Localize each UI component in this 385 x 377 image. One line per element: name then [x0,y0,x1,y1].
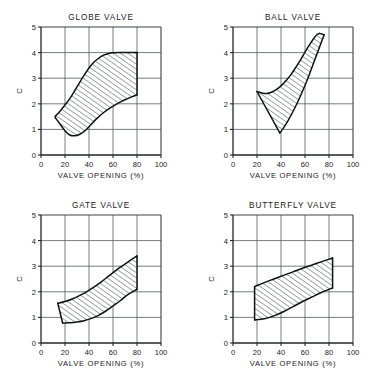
x-tick-label: 100 [347,348,360,357]
x-tick-label: 0 [39,160,43,169]
y-tick-label: 1 [224,313,228,322]
y-tick-label: 4 [32,49,36,58]
band-fill [257,33,324,133]
chart-panel-globe-valve: GLOBE VALVE020406080100012345VALVE OPENI… [0,0,192,188]
y-tick-label: 0 [224,151,228,160]
x-tick-label: 60 [301,348,309,357]
y-tick-label: 0 [32,151,36,160]
y-tick-label: 5 [224,211,228,220]
y-tick-label: 4 [224,237,228,246]
y-tick-label: 0 [224,339,228,348]
y-tick-label: 1 [32,313,36,322]
y-tick-label: 2 [224,100,228,109]
x-tick-label: 60 [109,348,117,357]
chart-panel-butterfly-valve: BUTTERFLY VALVE020406080100012345VALVE O… [192,188,385,377]
chart-title: GATE VALVE [72,201,130,210]
chart-title: GLOBE VALVE [68,13,134,22]
plot-frame [41,215,161,343]
x-tick-label: 80 [325,348,333,357]
y-tick-label: 3 [224,74,228,83]
chart-title: BALL VALVE [265,13,321,22]
y-tick-label: 3 [224,262,228,271]
x-axis-ticks: 020406080100 [39,155,167,169]
x-tick-label: 0 [231,160,235,169]
y-tick-label: 4 [32,237,36,246]
x-tick-label: 40 [277,160,285,169]
y-tick-label: 5 [224,23,228,32]
x-tick-label: 40 [85,348,93,357]
y-axis-label: C [207,88,216,94]
x-tick-label: 100 [347,160,360,169]
x-tick-label: 80 [325,160,333,169]
y-tick-label: 1 [32,125,36,134]
x-tick-label: 20 [61,160,69,169]
x-axis-label: VALVE OPENING (%) [58,171,144,180]
x-tick-label: 60 [301,160,309,169]
y-tick-label: 0 [32,339,36,348]
x-tick-label: 40 [85,160,93,169]
x-tick-label: 20 [253,348,261,357]
x-axis-label: VALVE OPENING (%) [250,171,336,180]
y-tick-label: 3 [32,262,36,271]
valve-charts-figure: GLOBE VALVE020406080100012345VALVE OPENI… [0,0,385,377]
x-tick-label: 40 [277,348,285,357]
y-tick-label: 5 [32,211,36,220]
x-tick-label: 0 [231,348,235,357]
x-tick-label: 80 [133,160,141,169]
y-axis-label: C [15,88,24,94]
grid [41,215,161,343]
y-axis-label: C [15,276,24,282]
chart-panel-ball-valve: BALL VALVE020406080100012345VALVE OPENIN… [192,0,385,188]
x-tick-label: 100 [155,160,168,169]
y-tick-label: 2 [32,100,36,109]
y-tick-label: 2 [32,288,36,297]
x-axis-label: VALVE OPENING (%) [58,359,144,368]
x-axis-ticks: 020406080100 [231,155,359,169]
band-fill [255,258,333,320]
x-tick-label: 60 [109,160,117,169]
y-axis-ticks: 012345 [224,211,233,348]
y-axis-ticks: 012345 [224,23,233,160]
y-tick-label: 5 [32,23,36,32]
x-axis-ticks: 020406080100 [231,343,359,357]
axes [41,215,161,343]
y-tick-label: 4 [224,49,228,58]
y-tick-label: 1 [224,125,228,134]
x-tick-label: 100 [155,348,168,357]
y-axis-ticks: 012345 [32,23,41,160]
band-fill [55,53,137,136]
x-tick-label: 20 [253,160,261,169]
x-tick-label: 80 [133,348,141,357]
y-tick-label: 3 [32,74,36,83]
y-axis-ticks: 012345 [32,211,41,348]
y-tick-label: 2 [224,288,228,297]
chart-title: BUTTERFLY VALVE [249,201,337,210]
x-axis-label: VALVE OPENING (%) [250,359,336,368]
x-axis-ticks: 020406080100 [39,343,167,357]
x-tick-label: 0 [39,348,43,357]
x-tick-label: 20 [61,348,69,357]
y-axis-label: C [207,276,216,282]
chart-panel-gate-valve: GATE VALVE020406080100012345VALVE OPENIN… [0,188,192,377]
